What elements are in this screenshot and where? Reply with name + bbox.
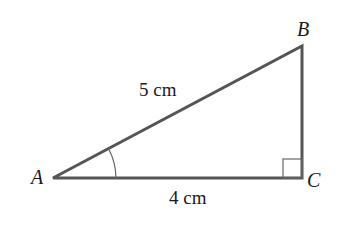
vertex-label-b: B <box>297 18 309 41</box>
angle-arc-a <box>109 149 116 178</box>
triangle-abc <box>53 46 302 178</box>
side-label-hypotenuse: 5 cm <box>139 79 176 101</box>
vertex-label-c: C <box>307 169 320 192</box>
side-label-base: 4 cm <box>169 187 206 209</box>
vertex-label-a: A <box>31 166 43 189</box>
right-angle-marker <box>283 159 302 178</box>
